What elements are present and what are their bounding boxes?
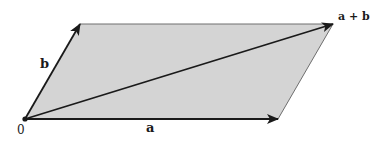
origin-point (22, 116, 27, 121)
vector-sum-label: a + b (338, 10, 370, 23)
vector-a-label: a (146, 120, 155, 135)
parallelogram-diagram: 0 a b a + b (0, 0, 392, 142)
vector-b-label: b (40, 56, 49, 71)
origin-label: 0 (17, 123, 25, 137)
